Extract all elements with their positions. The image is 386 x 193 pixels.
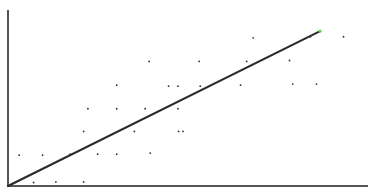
data-point bbox=[292, 83, 294, 85]
data-point bbox=[149, 152, 151, 154]
data-points bbox=[18, 36, 344, 184]
data-point bbox=[42, 154, 44, 156]
regression-line bbox=[8, 30, 322, 186]
data-point bbox=[116, 84, 118, 86]
data-point bbox=[182, 131, 184, 133]
data-point bbox=[198, 60, 200, 62]
trend-line bbox=[8, 31, 320, 186]
data-point bbox=[177, 108, 179, 110]
data-point bbox=[240, 84, 242, 86]
data-point bbox=[55, 181, 57, 183]
data-point bbox=[18, 154, 20, 156]
data-point bbox=[148, 60, 150, 62]
data-point bbox=[133, 131, 135, 133]
data-point bbox=[343, 36, 345, 38]
data-point bbox=[199, 85, 201, 87]
data-point bbox=[310, 36, 312, 38]
plot-area bbox=[0, 0, 386, 193]
data-point bbox=[116, 108, 118, 110]
data-point bbox=[33, 182, 35, 184]
data-point bbox=[87, 108, 89, 110]
data-point bbox=[144, 108, 146, 110]
data-point bbox=[178, 131, 180, 133]
data-point bbox=[116, 153, 118, 155]
data-point bbox=[83, 131, 85, 133]
data-point bbox=[289, 60, 291, 62]
data-point bbox=[97, 153, 99, 155]
data-point bbox=[83, 181, 85, 183]
data-point bbox=[252, 37, 254, 39]
data-point bbox=[69, 153, 71, 155]
data-point bbox=[316, 83, 318, 85]
data-point bbox=[177, 85, 179, 87]
data-point bbox=[246, 60, 248, 62]
scatter-chart bbox=[0, 0, 386, 193]
trend-line-end-marker bbox=[319, 30, 322, 33]
data-point bbox=[168, 85, 170, 87]
